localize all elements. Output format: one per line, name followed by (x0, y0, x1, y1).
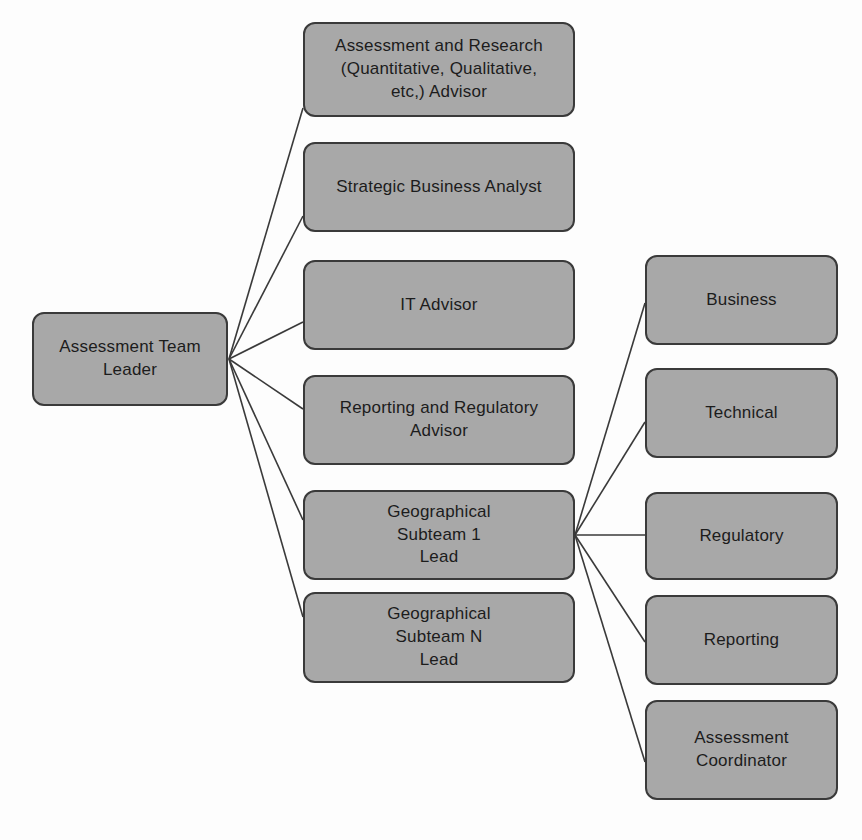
node-label-team-leader: Assessment Team Leader (59, 336, 201, 382)
connector-team-leader-to-strategic-business-analyst (229, 216, 303, 359)
node-label-geo-subteam-1-lead: Geographical Subteam 1 Lead (387, 501, 491, 570)
node-reporting-regulatory-advisor[interactable]: Reporting and Regulatory Advisor (303, 375, 575, 465)
node-assessment-research-advisor[interactable]: Assessment and Research (Quantitative, Q… (303, 22, 575, 117)
connector-team-leader-to-assessment-research-advisor (229, 108, 303, 359)
node-regulatory[interactable]: Regulatory (645, 492, 838, 580)
node-technical[interactable]: Technical (645, 368, 838, 458)
connector-geo-subteam-1-lead-to-technical (575, 422, 645, 535)
node-label-reporting-regulatory-advisor: Reporting and Regulatory Advisor (340, 397, 539, 443)
node-business[interactable]: Business (645, 255, 838, 345)
connector-geo-subteam-1-lead-to-reporting (575, 535, 645, 642)
connector-team-leader-to-it-advisor (229, 322, 303, 359)
node-label-geo-subteam-n-lead: Geographical Subteam N Lead (387, 603, 491, 672)
node-label-business: Business (706, 289, 777, 312)
node-reporting[interactable]: Reporting (645, 595, 838, 685)
node-strategic-business-analyst[interactable]: Strategic Business Analyst (303, 142, 575, 232)
node-it-advisor[interactable]: IT Advisor (303, 260, 575, 350)
connector-geo-subteam-1-lead-to-business (575, 303, 645, 535)
node-label-technical: Technical (705, 402, 778, 425)
node-label-strategic-business-analyst: Strategic Business Analyst (336, 176, 542, 199)
node-team-leader[interactable]: Assessment Team Leader (32, 312, 228, 406)
node-label-regulatory: Regulatory (699, 525, 783, 548)
node-label-reporting: Reporting (704, 629, 780, 652)
node-label-assessment-coordinator: Assessment Coordinator (694, 727, 789, 773)
node-geo-subteam-n-lead[interactable]: Geographical Subteam N Lead (303, 592, 575, 683)
node-geo-subteam-1-lead[interactable]: Geographical Subteam 1 Lead (303, 490, 575, 580)
node-label-it-advisor: IT Advisor (400, 294, 477, 317)
org-chart-canvas: Assessment Team LeaderAssessment and Res… (0, 0, 862, 840)
connector-geo-subteam-1-lead-to-assessment-coordinator (575, 535, 645, 762)
node-label-assessment-research-advisor: Assessment and Research (Quantitative, Q… (335, 35, 543, 104)
connector-team-leader-to-geo-subteam-n-lead (229, 359, 303, 617)
node-assessment-coordinator[interactable]: Assessment Coordinator (645, 700, 838, 800)
